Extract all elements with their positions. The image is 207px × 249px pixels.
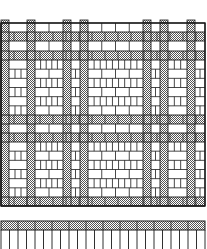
horizontal-band (1, 115, 205, 124)
vertical-band (160, 23, 168, 206)
vertical-band (187, 23, 195, 206)
vertical-band (143, 23, 151, 206)
vertical-band (1, 23, 9, 206)
plan-view (1, 20, 205, 206)
elevation-view (1, 221, 205, 249)
horizontal-band (1, 51, 205, 60)
vertical-band (27, 23, 35, 206)
vertical-band (63, 23, 71, 206)
horizontal-band (1, 32, 205, 41)
vertical-band (80, 23, 88, 206)
horizontal-band (1, 197, 205, 206)
horizontal-band (1, 133, 205, 142)
paving-pattern-figure (0, 0, 207, 249)
